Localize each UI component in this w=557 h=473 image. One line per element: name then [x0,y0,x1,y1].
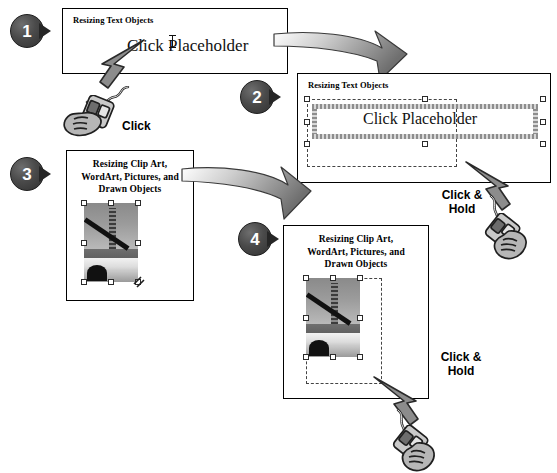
caption-click-hold-4-line1: Click & [430,350,492,364]
step-badge-3: 3 [10,157,44,191]
step-badge-1-number: 1 [22,23,31,40]
panel-2-title: Resizing Text Objects [308,80,388,90]
selection-handle-icon[interactable] [135,240,141,246]
panel-4-title-line3: Drawn Objects [284,258,428,271]
panel-3-title-line1: Resizing Clip Art, [67,158,193,171]
selection-handle-icon[interactable] [81,200,87,206]
step-badge-1-tail [39,23,51,39]
step-badge-2-number: 2 [252,89,261,106]
mouse-hand-icon-2 [484,213,542,263]
panel-3-title-line2: WordArt, Pictures, and [67,171,193,184]
selection-handle-icon[interactable] [135,200,141,206]
selection-handle-icon[interactable] [81,240,87,246]
panel-3-title: Resizing Clip Art, WordArt, Pictures, an… [67,158,193,196]
selection-handle-icon[interactable] [304,119,310,125]
selection-handle-icon[interactable] [330,275,336,281]
selection-handle-icon[interactable] [108,279,114,285]
resize-cursor-icon [133,276,146,289]
caption-click-hold-2-line2: Hold [433,202,491,216]
panel-4-title-line1: Resizing Clip Art, [284,233,428,246]
step-badge-3-number: 3 [22,166,31,183]
selection-handle-icon[interactable] [108,200,114,206]
bridge-photo-icon [306,278,360,357]
caption-click-1: Click [122,119,151,133]
step-badge-2-tail [269,89,281,105]
selection-handle-icon[interactable] [304,96,310,102]
selection-handle-icon[interactable] [422,141,428,147]
selection-handle-icon[interactable] [540,96,546,102]
selection-handle-icon[interactable] [303,275,309,281]
selection-handle-icon[interactable] [303,354,309,360]
step-badge-2: 2 [240,80,274,114]
selection-handle-icon[interactable] [422,96,428,102]
slide-panel-4: Resizing Clip Art, WordArt, Pictures, an… [283,225,429,399]
panel-4-title-line2: WordArt, Pictures, and [284,246,428,259]
panel-2-selection-frame[interactable]: Click Placeholder [307,99,543,144]
selection-handle-icon[interactable] [540,141,546,147]
step-badge-3-tail [39,166,51,182]
panel-3-selection-frame[interactable] [84,203,138,282]
selection-handle-icon[interactable] [330,354,336,360]
panel-3-title-line3: Drawn Objects [67,183,193,196]
panel-2-placeholder-text: Click Placeholder [363,110,477,128]
mouse-hand-icon-1 [60,95,116,141]
selection-handle-icon[interactable] [357,354,363,360]
slide-panel-3: Resizing Clip Art, WordArt, Pictures, an… [66,150,194,301]
text-cursor-icon [169,35,176,48]
selection-handle-icon[interactable] [304,141,310,147]
step-badge-4: 4 [238,222,272,256]
selection-handle-icon[interactable] [540,119,546,125]
panel-1-title: Resizing Text Objects [73,15,153,25]
mouse-hand-icon-4 [392,425,450,473]
panel-4-title: Resizing Clip Art, WordArt, Pictures, an… [284,233,428,271]
step-badge-4-tail [267,231,279,247]
caption-click-hold-2-line1: Click & [433,188,491,202]
step-badge-4-number: 4 [250,231,259,248]
selection-handle-icon[interactable] [303,315,309,321]
curved-arrow-icon-2 [180,163,314,225]
selection-handle-icon[interactable] [357,275,363,281]
figure-canvas: 1 Resizing Text Objects Click Placeholde… [0,0,557,473]
bridge-photo-icon [84,203,138,282]
panel-4-selection-frame[interactable] [306,278,360,357]
step-badge-1: 1 [10,14,44,48]
caption-click-hold-4-line2: Hold [430,364,492,378]
selection-handle-icon[interactable] [81,279,87,285]
selection-handle-icon[interactable] [357,315,363,321]
